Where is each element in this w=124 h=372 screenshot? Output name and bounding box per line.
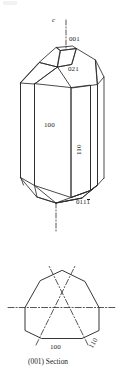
face-upper-right [96, 60, 105, 85]
edge-lower-right-outer [98, 178, 105, 185]
face-prism-leftmost [21, 83, 24, 185]
crystal-habit-group [8, 20, 116, 345]
face-label-100: 100 [44, 122, 55, 129]
face-label-110: 110 [76, 144, 83, 155]
face-lower-left [21, 178, 57, 204]
section-symmetry-axes [8, 266, 116, 345]
overline-bar [87, 199, 91, 200]
face-label-011bar-overline-digit: 1 [87, 199, 91, 206]
section-group [8, 266, 116, 345]
section-outline [25, 271, 99, 339]
face-upper-left [40, 48, 61, 68]
edge-upper-left-ridge [21, 63, 40, 84]
page-artifact-mark [3, 1, 17, 5]
face-100-front [35, 84, 72, 198]
c-axis-label: c [52, 17, 55, 24]
axis-diagonal-a [36, 266, 75, 345]
axis-diagonal-b [49, 266, 88, 345]
crystal-diagram-svg [0, 0, 124, 372]
face-110-side [71, 86, 91, 198]
face-label-011bar: 0111 [76, 199, 90, 206]
face-prism-rightmost [91, 85, 98, 191]
face-label-011bar-digits: 011 [76, 198, 87, 206]
figure-caption: (001) Section [28, 357, 68, 366]
crystal-figure: c 001 021 100 110 0111 100 110 (001) Sec… [0, 0, 124, 372]
face-label-021: 021 [68, 66, 79, 73]
face-label-001: 001 [69, 36, 80, 43]
edge-upper-center-ridge [35, 67, 58, 84]
section-label-100: 100 [50, 344, 61, 351]
